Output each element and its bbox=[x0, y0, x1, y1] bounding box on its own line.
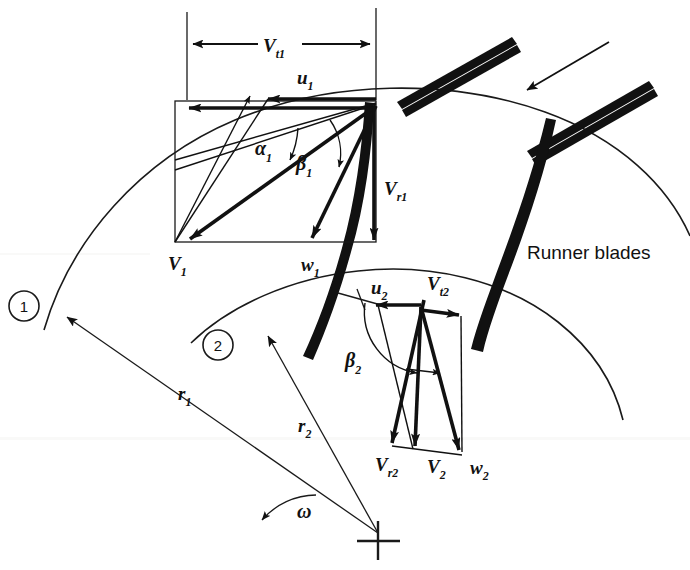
label-v-r1: Vr1 bbox=[384, 178, 407, 204]
vector-v1 bbox=[190, 106, 376, 239]
radius-line-r1 bbox=[67, 317, 378, 533]
label-v-t2: Vt2 bbox=[427, 273, 449, 299]
scan-artifacts bbox=[0, 253, 690, 440]
francis-turbine-velocity-diagram: Vt1 u1 α1 β1 bbox=[0, 0, 690, 570]
label-omega: ω bbox=[297, 500, 311, 522]
label-w1: w1 bbox=[301, 254, 320, 280]
vector-v-t2 bbox=[421, 310, 459, 315]
label-w2: w2 bbox=[470, 457, 489, 483]
axis-center-crosshair bbox=[357, 521, 400, 560]
label-r1: r1 bbox=[178, 383, 191, 409]
label-v2: V2 bbox=[427, 456, 446, 482]
station-marker-2-text: 2 bbox=[214, 337, 222, 354]
label-v-r2: Vr2 bbox=[375, 454, 398, 480]
label-beta1: β1 bbox=[295, 152, 312, 180]
vector-w2 bbox=[421, 307, 459, 450]
station-marker-1-text: 1 bbox=[20, 298, 28, 315]
label-u2: u2 bbox=[371, 277, 388, 303]
label-v-t1: Vt1 bbox=[263, 35, 285, 61]
angle-beta1 bbox=[330, 120, 341, 167]
runner-inner-arc-station-2 bbox=[191, 269, 623, 420]
label-beta2: β2 bbox=[344, 349, 361, 377]
station-marker-2: 2 bbox=[203, 330, 233, 360]
label-alpha1: α1 bbox=[255, 137, 272, 165]
label-v1: V1 bbox=[168, 253, 187, 279]
label-runner-blades: Runner blades bbox=[527, 242, 651, 263]
inflow-arrow bbox=[527, 42, 609, 90]
label-u1: u1 bbox=[297, 67, 314, 93]
station-marker-1: 1 bbox=[9, 291, 39, 321]
guide-vane-upper bbox=[397, 37, 521, 117]
runner-blade-right bbox=[471, 118, 556, 352]
radius-line-r2 bbox=[268, 336, 378, 533]
